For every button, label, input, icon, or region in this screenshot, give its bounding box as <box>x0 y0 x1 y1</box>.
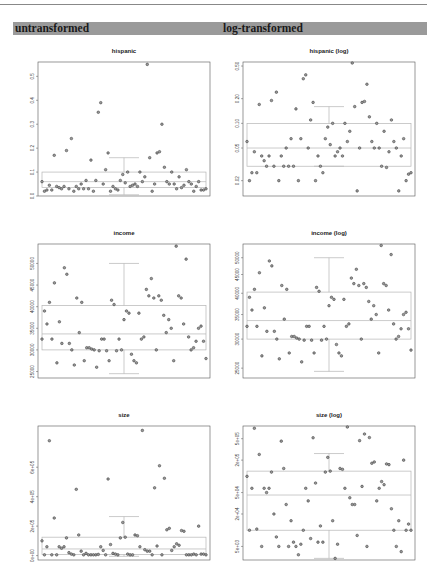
y-tick-label: 2e+05 <box>30 519 35 532</box>
y-tick-label: 0.02 <box>235 176 240 185</box>
y-tick-label: 50000 <box>30 257 35 270</box>
y-tick-label: 0.0 <box>30 192 35 199</box>
plot-frame <box>38 426 210 560</box>
y-tick-label: 0.20 <box>235 94 240 103</box>
boxplot <box>247 454 411 559</box>
y-tick-label: 25000 <box>235 361 240 374</box>
y-tick-label: 2e+05 <box>235 453 240 466</box>
plot-svg: hispanic (log)0.020.050.100.200.50 <box>225 44 425 204</box>
y-tick-label: 30000 <box>235 332 240 345</box>
plot-svg: income250003000035000400004500050000 <box>20 226 220 386</box>
y-tick-label: 50000 <box>235 251 240 264</box>
y-tick-label: 30000 <box>30 343 35 356</box>
plot-frame <box>38 62 210 196</box>
y-tick-label: 40000 <box>235 286 240 299</box>
y-tick-label: 45000 <box>235 268 240 281</box>
chart-hispanic-log: hispanic (log)0.020.050.100.200.50 <box>225 44 425 204</box>
y-tick-label: 2e+04 <box>235 507 240 520</box>
y-tick-label: 0.1 <box>30 168 35 175</box>
plot-title: hispanic (log) <box>310 48 349 54</box>
plot-title: hispanic <box>112 48 137 54</box>
y-tick-label: 40000 <box>30 300 35 313</box>
y-tick-label: 4e+05 <box>30 490 35 503</box>
header-label-log-transformed: log-transformed <box>223 22 303 35</box>
y-tick-label: 0.10 <box>235 118 240 127</box>
chart-income: income250003000035000400004500050000 <box>20 226 220 386</box>
boxplot <box>42 158 206 195</box>
header-label-untransformed: untransformed <box>15 22 89 35</box>
y-tick-label: 0.3 <box>30 121 35 128</box>
y-tick-label: 0.4 <box>30 97 35 104</box>
page-top-rule <box>0 4 427 5</box>
plot-svg: size (log)5e+032e+045e+042e+055e+05 <box>225 408 425 568</box>
y-tick-label: 0.2 <box>30 145 35 152</box>
y-tick-label: 0.50 <box>235 61 240 70</box>
plot-svg: size0e+002e+054e+056e+05 <box>20 408 220 568</box>
y-tick-label: 5e+03 <box>235 540 240 553</box>
y-tick-label: 5e+04 <box>235 486 240 499</box>
y-tick-label: 0.5 <box>30 73 35 80</box>
y-tick-label: 35000 <box>235 308 240 321</box>
boxplot <box>247 258 411 372</box>
y-tick-label: 0.05 <box>235 143 240 152</box>
boxplot <box>247 107 411 167</box>
plot-svg: income (log)2500030000350004000045000500… <box>225 226 425 386</box>
data-points <box>41 63 208 192</box>
y-tick-label: 0e+00 <box>30 549 35 562</box>
chart-size-log: size (log)5e+032e+045e+042e+055e+05 <box>225 408 425 568</box>
y-tick-label: 25000 <box>30 365 35 378</box>
plot-title: income <box>113 230 135 236</box>
data-points <box>246 62 413 193</box>
plot-title: size <box>118 412 130 418</box>
chart-hispanic: hispanic0.00.10.20.30.40.5 <box>20 44 220 204</box>
y-tick-label: 6e+05 <box>30 460 35 473</box>
y-tick-label: 35000 <box>30 321 35 334</box>
y-tick-label: 5e+05 <box>235 432 240 445</box>
plot-frame <box>243 62 415 196</box>
chart-income-log: income (log)2500030000350004000045000500… <box>225 226 425 386</box>
plot-svg: hispanic0.00.10.20.30.40.5 <box>20 44 220 204</box>
chart-size: size0e+002e+054e+056e+05 <box>20 408 220 568</box>
plot-title: income (log) <box>311 230 347 236</box>
plot-title: size (log) <box>316 412 342 418</box>
y-tick-label: 45000 <box>30 278 35 291</box>
